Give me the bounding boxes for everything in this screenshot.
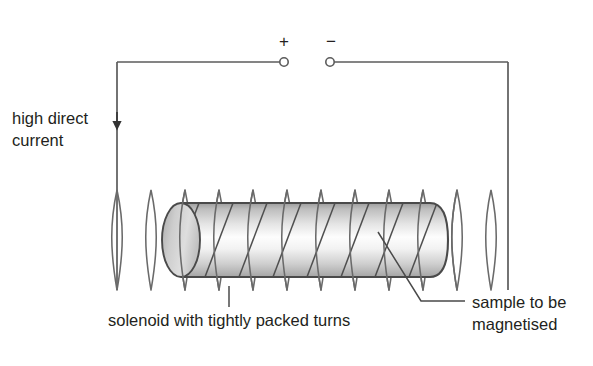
diagram-canvas: + −	[0, 0, 593, 366]
solenoid-magnetisation-diagram: + −	[0, 0, 593, 366]
terminal-group: + −	[279, 32, 336, 66]
supply-label-line1: high direct	[12, 109, 89, 127]
positive-terminal-icon[interactable]	[280, 58, 288, 66]
cylinder-body	[181, 203, 448, 277]
supply-label-line2: current	[12, 131, 64, 149]
current-direction-arrow-icon	[112, 112, 121, 131]
positive-sign-label: +	[279, 32, 289, 51]
sample-label-line1: sample to be	[472, 293, 566, 311]
negative-sign-label: −	[326, 32, 336, 51]
sample-label-line2: magnetised	[472, 315, 557, 333]
negative-terminal-icon[interactable]	[326, 58, 334, 66]
solenoid-label: solenoid with tightly packed turns	[108, 311, 350, 329]
